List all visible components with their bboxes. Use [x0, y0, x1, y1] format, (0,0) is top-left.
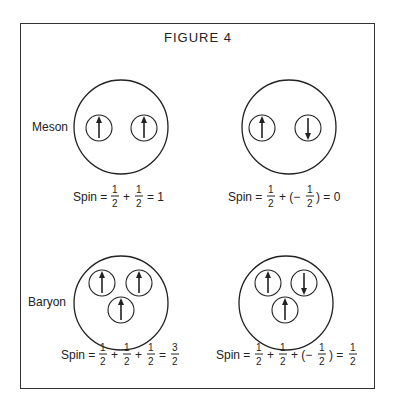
svg-text:Spin =: Spin = [61, 348, 95, 362]
baryon-aligned-equation: Spin = 12 + 12 + 12 = 32 [61, 342, 179, 367]
svg-text:Spin =: Spin = [216, 348, 250, 362]
svg-text:2: 2 [148, 356, 154, 367]
svg-text:2: 2 [100, 356, 106, 367]
spin-diagram: Meson Baryon Spin = 12 + 12 = 1 [0, 0, 396, 408]
svg-text:+: + [111, 348, 118, 362]
svg-text:1: 1 [307, 184, 313, 195]
quark-spin-down-icon [295, 115, 321, 141]
hadron-circle [242, 80, 336, 174]
svg-text:+ (−: + (− [279, 190, 300, 204]
quark-spin-up-icon [86, 115, 112, 141]
quark-spin-up-icon [108, 297, 134, 323]
quark-spin-up-icon [255, 270, 281, 296]
svg-text:1: 1 [256, 342, 262, 353]
svg-text:1: 1 [136, 184, 142, 195]
svg-text:1: 1 [124, 342, 130, 353]
meson-aligned-diagram [74, 80, 168, 174]
svg-text:+: + [135, 348, 142, 362]
svg-text:1: 1 [268, 184, 274, 195]
svg-text:2: 2 [350, 356, 356, 367]
svg-text:1: 1 [319, 342, 325, 353]
svg-text:1: 1 [112, 184, 118, 195]
svg-text:2: 2 [124, 356, 130, 367]
svg-text:1: 1 [280, 342, 286, 353]
svg-text:1: 1 [350, 342, 356, 353]
svg-text:3: 3 [172, 342, 178, 353]
svg-text:) =: ) = [329, 348, 343, 362]
baryon-mixed-diagram [239, 256, 333, 350]
svg-text:+: + [267, 348, 274, 362]
quark-spin-up-icon [131, 115, 157, 141]
svg-text:= 1: = 1 [147, 190, 164, 204]
meson-label: Meson [32, 120, 68, 134]
quark-spin-up-icon [272, 297, 298, 323]
quark-spin-up-icon [249, 115, 275, 141]
svg-text:2: 2 [136, 198, 142, 209]
svg-text:+: + [123, 190, 130, 204]
svg-text:2: 2 [307, 198, 313, 209]
svg-text:2: 2 [172, 356, 178, 367]
svg-text:Spin =: Spin = [73, 190, 107, 204]
meson-opposed-diagram [242, 80, 336, 174]
quark-spin-up-icon [89, 270, 115, 296]
svg-text:2: 2 [280, 356, 286, 367]
svg-text:=: = [159, 348, 166, 362]
quark-spin-up-icon [126, 270, 152, 296]
svg-text:) = 0: ) = 0 [316, 190, 341, 204]
svg-text:2: 2 [268, 198, 274, 209]
baryon-mixed-equation: Spin = 12 + 12 + (− 12 ) = 12 [216, 342, 357, 367]
hadron-circle [74, 80, 168, 174]
svg-text:2: 2 [256, 356, 262, 367]
baryon-aligned-diagram [74, 256, 168, 350]
svg-text:2: 2 [112, 198, 118, 209]
svg-text:+ (−: + (− [291, 348, 312, 362]
svg-text:2: 2 [319, 356, 325, 367]
meson-opposed-equation: Spin = 12 + (− 12 ) = 0 [228, 184, 341, 209]
baryon-label: Baryon [28, 295, 66, 309]
meson-aligned-equation: Spin = 12 + 12 = 1 [73, 184, 164, 209]
svg-text:1: 1 [148, 342, 154, 353]
svg-text:1: 1 [100, 342, 106, 353]
svg-text:Spin =: Spin = [228, 190, 262, 204]
quark-spin-down-icon [291, 270, 317, 296]
